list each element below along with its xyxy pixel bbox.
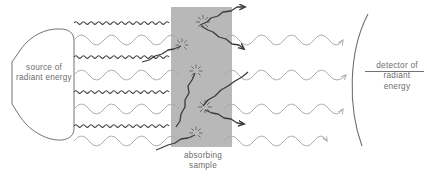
radiant-energy-source-body: [12, 29, 74, 140]
absorbing-sample-slab: [171, 7, 232, 147]
sample-label-line2: sample: [174, 161, 232, 171]
detector-label-line1: detector of: [369, 61, 425, 71]
transmitted-wave-3: [224, 70, 346, 80]
incident-wave-dark-0: [74, 22, 169, 25]
radiant-energy-detector-arc: [352, 14, 368, 146]
detector-label-line2: radiant: [369, 71, 425, 81]
sample-label-line1: absorbing: [174, 151, 232, 161]
detector-label-line3: energy: [369, 82, 425, 92]
absorbing-sample-label: absorbing sample: [174, 151, 232, 172]
transmitted-wave-7: [224, 136, 327, 146]
source-label: source of radiant energy: [8, 63, 80, 84]
source-label-line1: source of: [8, 63, 80, 73]
transmitted-wave-5: [224, 104, 343, 114]
incident-wave-dark-6: [74, 125, 169, 128]
incident-wave-light-5: [74, 104, 179, 114]
incident-wave-light-3: [74, 70, 179, 80]
source-label-line2: radiant energy: [8, 73, 80, 83]
transmitted-wave-group: [224, 35, 346, 146]
transmitted-wave-1: [224, 35, 343, 45]
incident-wave-group: [74, 22, 179, 146]
incident-wave-light-7: [74, 136, 179, 146]
detector-label: detector of radiant energy: [369, 61, 425, 92]
incident-wave-dark-4: [74, 91, 169, 94]
diagram-canvas: source of radiant energy detector of rad…: [0, 0, 427, 184]
incident-wave-light-1: [74, 35, 179, 45]
